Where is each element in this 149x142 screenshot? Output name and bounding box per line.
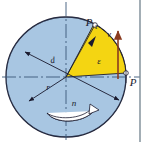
rotating-disc-figure: P 1 v ε d r n P — [0, 0, 149, 142]
label-radius-r: r — [46, 82, 50, 92]
figure-canvas: P 1 v ε d r n P — [0, 0, 149, 142]
label-point-p1-subscript: 1 — [94, 23, 98, 31]
label-angle-epsilon: ε — [97, 56, 101, 66]
label-point-p1: P — [85, 16, 93, 28]
label-rotation-n: n — [72, 98, 77, 108]
label-velocity: v — [107, 29, 111, 39]
label-point-p: P — [129, 76, 137, 88]
